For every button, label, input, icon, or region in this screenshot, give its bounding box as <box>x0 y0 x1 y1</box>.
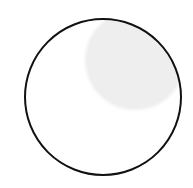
circle-figure <box>0 0 193 188</box>
